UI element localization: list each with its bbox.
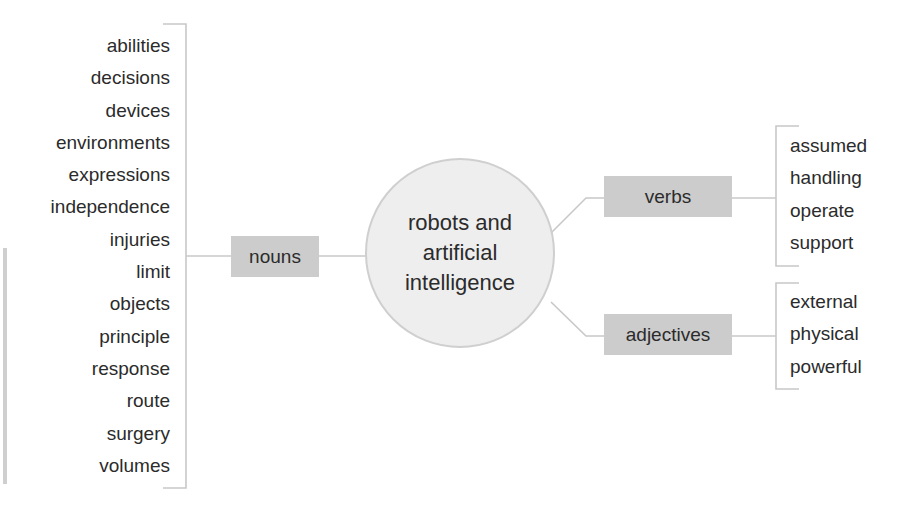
list-item: limit [51,256,170,288]
center-to-adjectives-line [551,302,604,336]
list-item: powerful [790,351,862,383]
list-item: handling [790,162,867,194]
nouns-node: nouns [231,236,319,277]
list-item: physical [790,318,862,350]
central-topic-line: robots and [405,208,515,238]
adjectives-node: adjectives [604,314,732,355]
list-item: assumed [790,130,867,162]
list-item: surgery [51,418,170,450]
list-item: objects [51,288,170,320]
adjectives-label: adjectives [626,324,711,346]
list-item: support [790,227,867,259]
list-item: independence [51,191,170,223]
list-item: environments [51,127,170,159]
list-item: volumes [51,450,170,482]
list-item: route [51,385,170,417]
central-topic-node: robots and artificial intelligence [365,158,555,348]
list-item: principle [51,321,170,353]
list-item: injuries [51,224,170,256]
central-topic-line: artificial [405,238,515,268]
verbs-word-list: assumed handling operate support [790,130,867,259]
list-item: devices [51,95,170,127]
adjectives-word-list: external physical powerful [790,286,862,383]
list-item: response [51,353,170,385]
nouns-label: nouns [249,246,301,268]
list-item: decisions [51,62,170,94]
verbs-node: verbs [604,176,732,217]
list-item: expressions [51,159,170,191]
center-to-verbs-line [551,198,604,233]
list-item: external [790,286,862,318]
list-item: operate [790,195,867,227]
verbs-label: verbs [645,186,691,208]
list-item: abilities [51,30,170,62]
central-topic-line: intelligence [405,268,515,298]
nouns-word-list: abilities decisions devices environments… [51,30,170,482]
